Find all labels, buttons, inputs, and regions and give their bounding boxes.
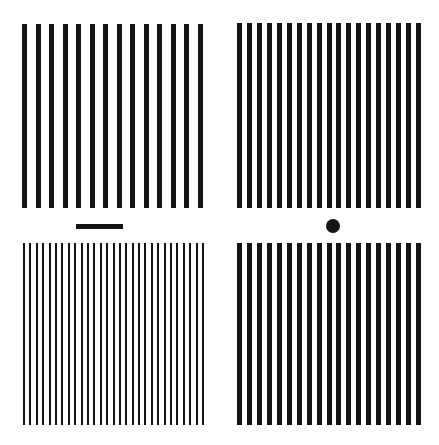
- grating-bar: [90, 24, 95, 208]
- grating-bar: [76, 24, 81, 208]
- grating-bar: [247, 243, 252, 425]
- grating-bar: [36, 243, 38, 425]
- grating-bar: [157, 24, 162, 208]
- grating-bar: [307, 243, 312, 425]
- grating-bar: [36, 24, 41, 208]
- grating-bar: [287, 243, 292, 425]
- grating-bar: [346, 243, 351, 425]
- grating-bar: [297, 23, 302, 208]
- grating-bar: [366, 243, 371, 425]
- grating-bottom-right: [237, 243, 421, 425]
- grating-bar: [138, 243, 140, 425]
- grating-bar: [113, 243, 115, 425]
- grating-bar: [183, 243, 185, 425]
- dot-marker: [326, 219, 340, 233]
- grating-bar: [327, 23, 332, 208]
- grating-bar: [119, 243, 121, 425]
- grating-bottom-left: [23, 243, 204, 425]
- grating-bar: [189, 243, 191, 425]
- grating-bar: [376, 23, 381, 208]
- grating-bar: [171, 24, 176, 208]
- grating-bar: [176, 243, 178, 425]
- grating-bar: [277, 243, 282, 425]
- grating-bar: [386, 243, 391, 425]
- grating-bar: [336, 23, 341, 208]
- grating-bar: [100, 243, 102, 425]
- grating-bar: [151, 243, 153, 425]
- grating-bar: [317, 23, 322, 208]
- grating-bar: [125, 243, 127, 425]
- grating-bar: [297, 243, 302, 425]
- grating-bar: [63, 24, 68, 208]
- grating-bar: [198, 24, 203, 208]
- grating-bar: [130, 24, 135, 208]
- grating-bar: [23, 243, 25, 425]
- grating-bar: [247, 23, 252, 208]
- grating-bar: [287, 23, 292, 208]
- grating-bar: [366, 23, 371, 208]
- grating-bar: [396, 243, 401, 425]
- grating-bar: [356, 23, 361, 208]
- grating-bar: [237, 243, 242, 425]
- grating-bar: [396, 23, 401, 208]
- grating-bar: [257, 23, 262, 208]
- grating-bar: [49, 24, 54, 208]
- grating-bar: [144, 243, 146, 425]
- grating-bar: [346, 23, 351, 208]
- grating-top-right: [237, 23, 421, 208]
- grating-bar: [74, 243, 76, 425]
- grating-bar: [22, 24, 27, 208]
- grating-bar: [117, 24, 122, 208]
- grating-bar: [267, 23, 272, 208]
- grating-bar: [257, 243, 262, 425]
- grating-bar: [144, 24, 149, 208]
- grating-bar: [237, 23, 242, 208]
- grating-bar: [327, 243, 332, 425]
- grating-bar: [42, 243, 44, 425]
- grating-bar: [196, 243, 198, 425]
- grating-bar: [61, 243, 63, 425]
- grating-bar: [106, 243, 108, 425]
- grating-bar: [81, 243, 83, 425]
- grating-bar: [406, 243, 411, 425]
- grating-bar: [336, 243, 341, 425]
- grating-bar: [68, 243, 70, 425]
- grating-bar: [55, 243, 57, 425]
- dash-marker: [76, 224, 123, 229]
- grating-bar: [157, 243, 159, 425]
- grating-bar: [164, 243, 166, 425]
- grating-bar: [170, 243, 172, 425]
- grating-top-left: [22, 24, 203, 208]
- grating-bar: [416, 243, 421, 425]
- grating-bar: [376, 243, 381, 425]
- grating-bar: [132, 243, 134, 425]
- grating-bar: [277, 23, 282, 208]
- grating-bar: [356, 243, 361, 425]
- grating-bar: [29, 243, 31, 425]
- grating-bar: [317, 243, 322, 425]
- grating-bar: [87, 243, 89, 425]
- grating-bar: [416, 23, 421, 208]
- grating-bar: [307, 23, 312, 208]
- grating-bar: [49, 243, 51, 425]
- grating-bar: [386, 23, 391, 208]
- grating-bar: [184, 24, 189, 208]
- grating-bar: [93, 243, 95, 425]
- grating-bar: [267, 243, 272, 425]
- grating-bar: [406, 23, 411, 208]
- grating-bar: [103, 24, 108, 208]
- grating-bar: [202, 243, 204, 425]
